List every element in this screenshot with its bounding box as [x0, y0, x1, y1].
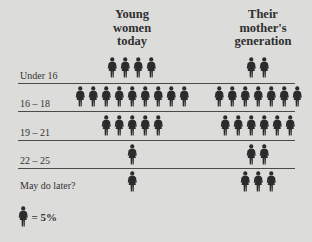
woman-figure-icon	[140, 115, 151, 136]
woman-figure-icon	[246, 144, 257, 165]
header-line: Young	[92, 8, 172, 22]
woman-figure-icon	[266, 171, 277, 192]
woman-figure-icon	[133, 57, 144, 78]
woman-figure-icon	[18, 206, 29, 227]
woman-figure-icon	[127, 144, 138, 165]
header-mothers-generation: Their mother's generation	[218, 8, 308, 49]
woman-figure-icon	[253, 171, 264, 192]
woman-figure-icon	[220, 115, 231, 136]
woman-figure-icon	[240, 86, 251, 107]
mothers-figures	[246, 57, 270, 78]
young-figures	[107, 57, 157, 78]
chart-row: 16 – 18	[18, 84, 295, 112]
woman-figure-icon	[253, 86, 264, 107]
chart-row: May do later?	[18, 169, 295, 193]
woman-figure-icon	[107, 57, 118, 78]
header-line: Their	[218, 8, 308, 22]
chart-row: Under 16	[18, 55, 295, 84]
woman-figure-icon	[166, 86, 177, 107]
young-figures	[101, 115, 164, 136]
mothers-figures	[240, 171, 277, 192]
row-label: 22 – 25	[20, 155, 50, 166]
woman-figure-icon	[127, 171, 138, 192]
header-line: generation	[218, 35, 308, 49]
woman-figure-icon	[179, 86, 190, 107]
woman-figure-icon	[227, 86, 238, 107]
woman-figure-icon	[18, 206, 29, 227]
legend-text: = 5%	[32, 211, 58, 223]
woman-figure-icon	[127, 115, 138, 136]
woman-figure-icon	[140, 86, 151, 107]
young-figures	[75, 86, 190, 107]
woman-figure-icon	[114, 115, 125, 136]
woman-figure-icon	[120, 57, 131, 78]
woman-figure-icon	[101, 86, 112, 107]
mothers-figures	[214, 86, 303, 107]
mothers-figures	[246, 144, 270, 165]
woman-figure-icon	[75, 86, 86, 107]
woman-figure-icon	[214, 86, 225, 107]
row-label: 16 – 18	[20, 98, 50, 109]
legend: = 5%	[18, 206, 57, 227]
woman-figure-icon	[279, 86, 290, 107]
chart-row: 19 – 21	[18, 113, 295, 141]
woman-figure-icon	[259, 115, 270, 136]
header-line: women	[92, 22, 172, 36]
woman-figure-icon	[292, 86, 303, 107]
woman-figure-icon	[272, 115, 283, 136]
woman-figure-icon	[266, 86, 277, 107]
header-line: today	[92, 35, 172, 49]
chart-row: 22 – 25	[18, 142, 295, 169]
row-label: Under 16	[20, 70, 58, 81]
woman-figure-icon	[101, 115, 112, 136]
woman-figure-icon	[246, 115, 257, 136]
woman-figure-icon	[153, 86, 164, 107]
woman-figure-icon	[233, 115, 244, 136]
row-label: May do later?	[20, 180, 76, 191]
young-figures	[127, 144, 138, 165]
header-young-women: Young women today	[92, 8, 172, 49]
young-figures	[127, 171, 138, 192]
woman-figure-icon	[259, 144, 270, 165]
woman-figure-icon	[114, 86, 125, 107]
woman-figure-icon	[153, 115, 164, 136]
woman-figure-icon	[240, 171, 251, 192]
woman-figure-icon	[259, 57, 270, 78]
woman-figure-icon	[246, 57, 257, 78]
row-label: 19 – 21	[20, 127, 50, 138]
mothers-figures	[220, 115, 296, 136]
woman-figure-icon	[88, 86, 99, 107]
woman-figure-icon	[285, 115, 296, 136]
woman-figure-icon	[127, 86, 138, 107]
woman-figure-icon	[146, 57, 157, 78]
header-line: mother's	[218, 22, 308, 36]
